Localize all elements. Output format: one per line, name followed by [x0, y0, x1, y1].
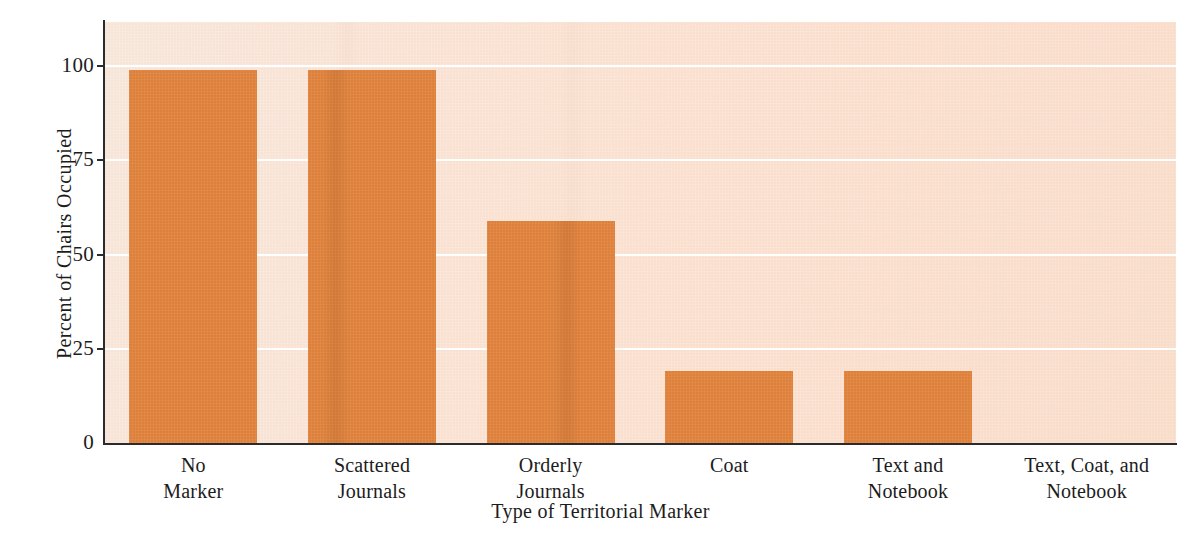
- y-tick-mark-25: [97, 348, 104, 350]
- plot-scan-banding: [104, 22, 1176, 443]
- x-tick-label-line: No: [104, 452, 283, 478]
- x-tick-label-line: Coat: [640, 452, 819, 478]
- plot-area: [104, 22, 1176, 443]
- x-axis-line: [103, 443, 1177, 445]
- x-tick-label-5: Text, Coat, andNotebook: [997, 452, 1176, 504]
- gridline-100: [104, 65, 1176, 67]
- x-tick-label-line: Text, Coat, and: [997, 452, 1176, 478]
- plot-texture: [104, 22, 1176, 443]
- y-axis-line: [103, 20, 105, 445]
- figure-bar-chart: 0255075100 Percent of Chairs Occupied No…: [0, 0, 1201, 548]
- bar-3: [665, 371, 793, 443]
- bar-1: [308, 70, 436, 443]
- y-tick-mark-50: [97, 254, 104, 256]
- x-tick-label-0: NoMarker: [104, 452, 283, 504]
- bar-texture: [844, 371, 972, 443]
- bar-texture: [129, 70, 257, 443]
- y-tick-mark-75: [97, 159, 104, 161]
- y-tick-mark-100: [97, 65, 104, 67]
- x-tick-label-line: Text and: [819, 452, 998, 478]
- bar-texture: [487, 221, 615, 443]
- gridline-50: [104, 254, 1176, 256]
- bar-2: [487, 221, 615, 443]
- x-tick-label-line: Orderly: [461, 452, 640, 478]
- x-tick-label-4: Text andNotebook: [819, 452, 998, 504]
- x-tick-label-line: Scattered: [283, 452, 462, 478]
- bar-0: [129, 70, 257, 443]
- bar-texture: [308, 70, 436, 443]
- x-tick-label-3: Coat: [640, 452, 819, 478]
- bar-4: [844, 371, 972, 443]
- gridline-25: [104, 348, 1176, 350]
- y-axis-title: Percent of Chairs Occupied: [53, 74, 76, 414]
- bar-texture: [665, 371, 793, 443]
- y-tick-label-0: 0: [34, 432, 94, 453]
- x-tick-label-2: OrderlyJournals: [461, 452, 640, 504]
- x-axis-title: Type of Territorial Marker: [0, 500, 1201, 523]
- gridline-75: [104, 159, 1176, 161]
- x-tick-label-1: ScatteredJournals: [283, 452, 462, 504]
